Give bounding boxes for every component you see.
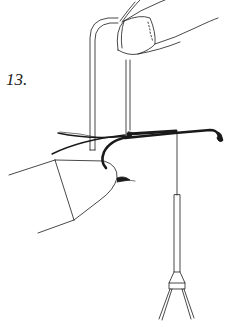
fly-tying-drawing [0, 0, 229, 325]
u-loop [90, 18, 130, 150]
bobbin-icon [159, 195, 194, 320]
hook-icon [52, 130, 222, 168]
finger-top-icon [117, 0, 218, 55]
illustration: 13. [0, 0, 229, 325]
holding-fingers-icon [9, 160, 135, 233]
